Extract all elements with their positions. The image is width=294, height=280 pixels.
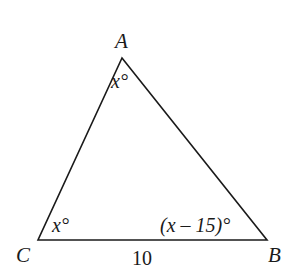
angle-label-a: x° <box>111 71 128 91</box>
side-label-cb: 10 <box>132 248 152 268</box>
vertex-label-a: A <box>115 31 128 52</box>
vertex-label-c: C <box>16 245 30 266</box>
vertex-label-b: B <box>268 245 281 266</box>
triangle-shape <box>0 0 294 280</box>
angle-label-c: x° <box>52 215 69 235</box>
angle-label-b: (x – 15)° <box>160 215 230 235</box>
triangle-diagram: A C B x° x° (x – 15)° 10 <box>0 0 294 280</box>
